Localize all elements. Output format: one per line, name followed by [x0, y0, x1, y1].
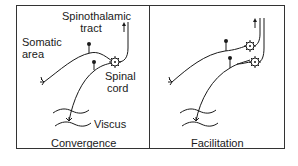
somatic-afferent-fiber: [172, 46, 246, 82]
label-line: area: [22, 48, 62, 60]
caption-facilitation: Facilitation: [191, 137, 244, 149]
label-line: Somatic: [22, 36, 62, 48]
somatic-nerve-ending: [168, 77, 172, 85]
somatic-nerve-ending: [40, 77, 44, 85]
label-spinal-cord: Spinal cord: [105, 70, 136, 94]
spinal-neuron-cell-body: [244, 40, 256, 52]
label-line: cord: [105, 82, 136, 94]
synaptic-bouton: [224, 39, 228, 43]
label-viscus: Viscus: [94, 118, 126, 130]
up-arrow-icon: [253, 18, 257, 28]
label-line: tract: [62, 22, 120, 34]
synaptic-bouton: [87, 42, 91, 46]
viscus-wave-lower: [182, 122, 218, 126]
synaptic-bouton: [92, 60, 96, 64]
caption-convergence: Convergence: [51, 137, 116, 149]
label-somatic-area: Somatic area: [22, 36, 62, 60]
convergence-facilitation-figure: Spinothalamic tract Somatic area Spinal …: [0, 0, 298, 166]
visceral-afferent-fiber: [196, 60, 250, 121]
outer-frame: [17, 6, 285, 149]
label-line: Spinothalamic: [62, 10, 120, 22]
viscus-wave-lower: [55, 122, 91, 126]
synaptic-bouton: [228, 56, 232, 60]
diagram-drawing: [0, 0, 298, 166]
up-arrow-icon: [122, 22, 126, 32]
spinal-neuron-cell-body: [109, 56, 121, 68]
visceral-nerve-ending: [193, 117, 199, 121]
spinal-neuron-cell-body: [249, 56, 261, 68]
label-line: Spinal: [105, 70, 136, 82]
label-spinothalamic-tract: Spinothalamic tract: [62, 10, 120, 34]
right-panel-drawing: [168, 18, 264, 126]
visceral-nerve-ending: [66, 117, 72, 121]
